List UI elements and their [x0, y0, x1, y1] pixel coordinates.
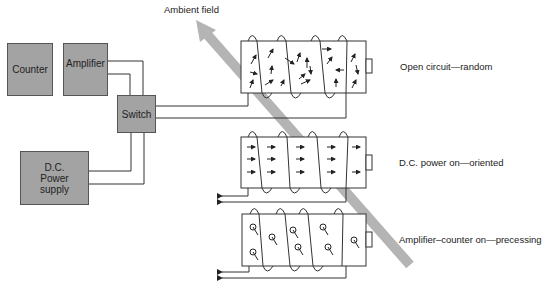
- coil-precessing: [242, 209, 372, 272]
- switch-block: Switch: [117, 95, 156, 133]
- state-label-random: Open circuit—random: [400, 61, 492, 72]
- coil-oriented: [241, 132, 372, 194]
- dc-power-supply-block: D.C. Power supply: [20, 151, 89, 205]
- power-label-line2: Power: [40, 173, 68, 184]
- ambient-field-label: Ambient field: [164, 4, 219, 15]
- counter-block: Counter: [7, 43, 53, 96]
- coil-random: [241, 36, 372, 99]
- switch-label: Switch: [122, 109, 151, 120]
- state-label-oriented: D.C. power on—oriented: [399, 157, 504, 168]
- amplifier-block: Amplifier: [63, 43, 108, 96]
- power-label-line3: supply: [40, 184, 69, 195]
- state-label-precessing: Amplifier–counter on—precessing: [399, 234, 542, 245]
- amplifier-label: Amplifier: [66, 58, 105, 69]
- power-label-line1: D.C.: [45, 162, 65, 173]
- counter-label: Counter: [12, 64, 48, 75]
